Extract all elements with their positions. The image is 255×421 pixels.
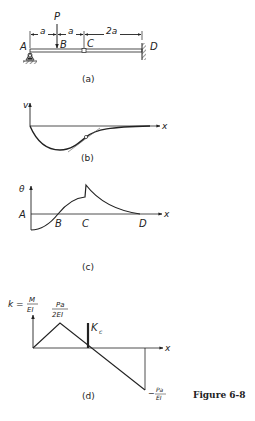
figure-6-8: P a a 2a A B C D (a) v x	[0, 0, 255, 421]
k-axis-den: EI	[27, 306, 34, 314]
panel-d-caption: (d)	[82, 391, 95, 401]
dimension-a1: a	[40, 26, 46, 36]
deflection-curve	[30, 126, 150, 150]
point-a-label-c: A	[18, 209, 26, 220]
v-axis-label: v	[23, 100, 29, 110]
point-c-label: C	[87, 38, 94, 49]
x-axis-label-d: x	[164, 343, 171, 353]
k-axis-num: M	[29, 296, 35, 304]
min-num: Pa	[156, 386, 164, 393]
pin-support-icon	[23, 53, 37, 64]
fixed-wall-icon	[142, 43, 146, 60]
panel-c-slope-diagram: θ x A B C D (c)	[18, 184, 170, 272]
panel-d-curvature-diagram: x k = M EI Pa 2EI K c − Pa EI (d)	[8, 296, 171, 401]
dimension-2a: 2a	[106, 26, 117, 36]
point-d-label-c: D	[139, 218, 147, 229]
figure-caption: Figure 6-8	[193, 390, 246, 400]
peak-den: 2EI	[52, 311, 63, 319]
panel-b-caption: (b)	[81, 153, 94, 163]
kc-label: K	[91, 322, 99, 333]
min-den: EI	[156, 394, 162, 401]
point-a-label: A	[19, 41, 27, 52]
load-label: P	[54, 11, 61, 22]
tangent-line	[68, 128, 100, 152]
hinge-icon	[82, 49, 86, 53]
min-sign: −	[148, 389, 155, 398]
x-axis-label-c: x	[163, 209, 170, 219]
point-b-label: B	[60, 39, 67, 50]
x-axis-label-b: x	[161, 121, 168, 131]
panel-b-deflection-diagram: v x (b)	[23, 100, 168, 163]
panel-a-beam-diagram: P a a 2a A B C D (a)	[19, 11, 158, 84]
panel-a-caption: (a)	[82, 74, 95, 84]
panel-c-caption: (c)	[82, 262, 94, 272]
kc-subscript: c	[99, 328, 103, 335]
k-axis-label: k =	[8, 299, 24, 309]
theta-axis-label: θ	[19, 184, 25, 194]
point-d-label: D	[150, 41, 158, 52]
point-c-label-c: C	[82, 218, 89, 229]
peak-num: Pa	[56, 301, 65, 309]
dimension-a2: a	[68, 26, 74, 36]
point-b-label-c: B	[55, 218, 62, 229]
hinge-point	[84, 135, 87, 138]
